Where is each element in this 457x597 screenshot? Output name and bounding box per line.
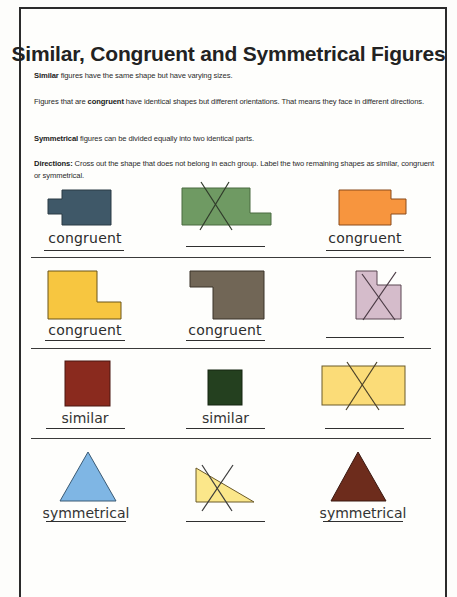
shape-rectangle-with-left-tab — [48, 190, 111, 225]
answer-line — [46, 428, 125, 429]
shape-isosceles-triangle-brown — [331, 452, 386, 501]
answer-line-blank[interactable] — [186, 246, 265, 247]
row-divider — [31, 257, 431, 258]
answer-line-blank[interactable] — [186, 521, 265, 522]
row-divider — [31, 438, 431, 439]
shape-inverted-l-shape — [190, 271, 264, 319]
label-row3-item2: similar — [186, 410, 265, 426]
shape-right-triangle — [196, 468, 254, 502]
answer-line — [44, 250, 124, 251]
label-row3-item1: similar — [45, 410, 125, 426]
answer-line-blank[interactable] — [326, 337, 404, 338]
label-row4-item3: symmetrical — [313, 505, 413, 521]
shape-stepped-rectangle — [182, 188, 271, 225]
answer-line — [326, 250, 404, 251]
shape-small-square — [208, 370, 242, 405]
answer-line — [45, 340, 125, 341]
answer-line — [46, 521, 126, 522]
answer-line — [186, 428, 265, 429]
answer-line-blank[interactable] — [325, 428, 404, 429]
shape-l-shape — [48, 271, 121, 319]
label-row2-item1: congruent — [44, 322, 126, 338]
label-row2-item2: congruent — [184, 322, 266, 338]
row-divider — [31, 348, 431, 349]
shape-large-square — [65, 361, 110, 406]
shape-notched-square — [356, 271, 401, 319]
label-row1-item3: congruent — [324, 230, 406, 246]
shape-rectangle — [322, 366, 405, 405]
shape-rectangle-with-right-tab — [339, 190, 406, 225]
label-row4-item1: symmetrical — [36, 505, 136, 521]
answer-line — [323, 521, 403, 522]
shape-isosceles-triangle-blue — [60, 452, 116, 501]
answer-line — [186, 340, 265, 341]
label-row1-item1: congruent — [44, 230, 126, 246]
